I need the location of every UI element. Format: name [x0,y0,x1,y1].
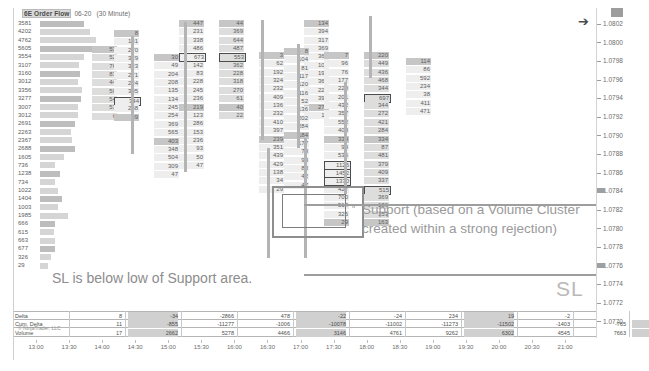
stats-cell: -1403 [520,320,570,328]
footprint-cell: 323 [114,63,139,70]
price-axis[interactable]: 1.08021.08001.07981.07961.07941.07921.07… [597,8,649,338]
footprint-cell: 47 [154,171,179,178]
footprint-cell: 245 [179,87,204,94]
volume-profile-bar [40,162,55,168]
stats-cell: -11277 [184,320,234,328]
stats-cell: 4607 [632,329,649,337]
volume-profile-bar [40,213,68,219]
footprint-cell: 644 [219,37,244,44]
price-tick-label: 1.0800 [597,39,623,46]
footprint-cell: 394 [304,28,329,35]
stats-cell: 6302 [464,329,514,337]
footprint-cell: 22 [219,112,244,119]
footprint-cell: 329 [114,55,139,62]
stats-cell: -855 [128,320,178,328]
stats-cell: 11 [72,320,122,328]
volume-profile-value: 1003 [18,204,38,211]
stats-cell: 17 [72,329,122,337]
volume-profile-bar [40,246,55,252]
stats-cell: -1006 [240,320,290,328]
footprint-cell: 344 [364,102,389,109]
footprint-cell: 38 [406,91,431,98]
footprint-cell: 317 [304,37,329,44]
footprint-cell: 334 [364,136,389,143]
time-tick-mark [168,340,169,343]
volume-profile-bar [40,104,78,110]
footprint-cell: 270 [114,47,139,54]
footprint-cell: 7 [324,52,349,59]
time-tick-label: 15:30 [194,344,209,350]
stats-cell: 478 [240,312,290,320]
footprint-cell: 44 [219,20,244,27]
volume-profile-bar [40,29,90,35]
time-tick-label: 18:30 [392,344,407,350]
footprint-cell: 224 [114,80,139,87]
volume-profile-value: 3356 [18,87,38,94]
volume-cluster-inner [282,194,346,228]
stats-cell: -2 [520,312,570,320]
footprint-cell: 271 [114,72,139,79]
time-tick-mark [135,340,136,343]
volume-profile-value: 1605 [18,154,38,161]
footprint-cell: 89 [114,114,139,121]
time-tick-label: 16:00 [227,344,242,350]
stats-cell: -24 [352,312,402,320]
stats-cell: -765 [576,320,626,328]
volume-profile-bar [40,87,82,93]
footprint-cell: 96 [324,60,349,67]
footprint-cell: 234 [406,83,431,90]
footprint-cell: 487 [219,45,244,52]
volume-profile-bar [40,129,71,135]
volume-profile-value: 2688 [18,145,38,152]
time-tick-mark [102,340,103,343]
footprint-cell: 449 [364,60,389,67]
plot-area[interactable]: 3581420247625605355431073160301233563277… [14,8,596,310]
time-tick-mark [334,340,335,343]
footprint-cell: 286 [179,120,204,127]
stats-cell: -34 [128,312,178,320]
footprint-cell: 50 [179,154,204,161]
volume-profile-bar [40,188,58,194]
time-tick-label: 17:00 [293,344,308,350]
volume-profile-value: 3012 [18,112,38,119]
footprint-cell: 134 [304,20,329,27]
stats-cell: -10078 [296,320,346,328]
footprint-cell: 486 [179,45,204,52]
footprint-cell: 8 [114,30,139,37]
time-tick-mark [201,340,202,343]
footprint-cell: 123 [179,112,204,119]
footprint-cell: 30 [154,54,179,61]
footprint-cell: 272 [364,110,389,117]
volume-profile-value: 663 [18,237,38,244]
volume-profile-value: 734 [18,179,38,186]
stats-grid-line [573,311,574,337]
volume-profile-bar [40,79,78,85]
stats-grid-line [181,311,182,337]
time-axis: 13:0013:3014:0014:3015:0015:3016:0016:30… [14,340,596,354]
stats-cell: -22 [296,312,346,320]
volume-profile-bar [40,154,64,160]
time-tick-mark [565,340,566,343]
stats-grid-line [349,311,350,337]
footprint-cell: 228 [219,70,244,77]
footprint-cell: 40 [219,104,244,111]
support-annotation: Support (based on a Volume Cluster creat… [362,200,600,238]
footprint-cell: 362 [219,62,244,69]
footprint-cell: 208 [154,79,179,86]
footprint-cell: 138 [259,169,284,176]
volume-profile-value: 1238 [18,170,38,177]
volume-profile-value: 3160 [18,70,38,77]
price-tick-label: 1.0774 [597,280,623,287]
time-tick-label: 14:00 [95,344,110,350]
volume-profile-bar [40,121,75,127]
footprint-cell: 134 [154,96,179,103]
volume-profile-value: 3007 [18,104,38,111]
volume-profile-value: 3554 [18,53,38,60]
volume-profile-bar [40,62,79,68]
price-tick-label: 1.0802 [597,20,623,27]
candle-wick [297,44,300,148]
right-arrow-icon[interactable]: ➔ [578,15,589,28]
time-tick-label: 21:00 [558,344,573,350]
stats-cell: 2662 [128,329,178,337]
volume-profile-value: 666 [18,220,38,227]
